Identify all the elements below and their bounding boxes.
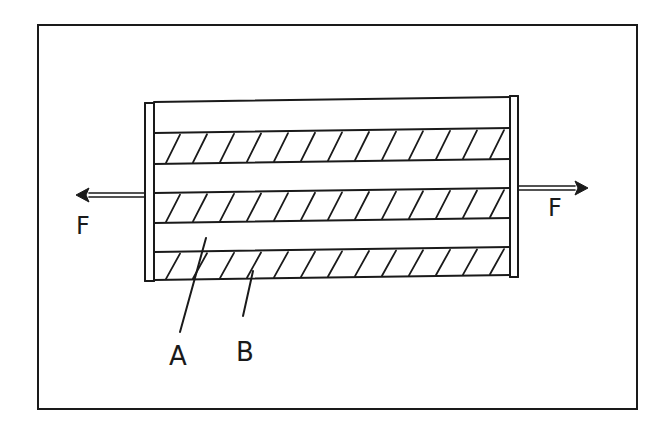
hatch-stroke-layer-5 bbox=[301, 252, 315, 277]
hatch-stroke-layer-1 bbox=[301, 133, 315, 161]
hatch-stroke-layer-1 bbox=[166, 135, 180, 163]
hatch-stroke-layer-1 bbox=[409, 131, 423, 159]
force-arrow-left bbox=[76, 188, 145, 202]
hatch-stroke-layer-1 bbox=[355, 132, 369, 160]
layer-interface-line bbox=[154, 247, 510, 252]
hatch-stroke-layer-3 bbox=[436, 191, 450, 218]
hatch-stroke-layer-3 bbox=[220, 194, 234, 221]
hatch-stroke-layer-5 bbox=[490, 249, 504, 274]
hatch-stroke-layer-5 bbox=[382, 251, 396, 276]
hatch-stroke-layer-3 bbox=[490, 190, 504, 217]
force-arrow-right bbox=[519, 181, 588, 195]
hatch-stroke-layer-5 bbox=[463, 249, 477, 274]
hatch-stroke-layer-1 bbox=[436, 131, 450, 159]
arrow-head-icon bbox=[575, 181, 588, 195]
hatch-stroke-layer-5 bbox=[274, 252, 288, 277]
hatch-stroke-layer-3 bbox=[301, 193, 315, 220]
hatch-stroke-layer-3 bbox=[166, 195, 180, 222]
hatch-stroke-layer-5 bbox=[355, 251, 369, 276]
hatch-stroke-layer-5 bbox=[328, 251, 342, 276]
hatch-stroke-layer-3 bbox=[382, 192, 396, 219]
hatch-stroke-layer-3 bbox=[409, 191, 423, 218]
hatch-stroke-layer-1 bbox=[382, 132, 396, 160]
arrow-head-icon bbox=[76, 188, 89, 202]
hatch-stroke-layer-1 bbox=[463, 130, 477, 158]
layer-interface-line bbox=[154, 97, 510, 102]
hatch-stroke-layer-1 bbox=[490, 130, 504, 158]
hatch-stroke-layer-1 bbox=[328, 132, 342, 160]
material-label-b: B bbox=[236, 337, 254, 367]
hatch-stroke-layer-5 bbox=[220, 253, 234, 278]
hatch-stroke-layer-3 bbox=[193, 194, 207, 221]
composite-laminate-diagram: F F A B bbox=[0, 0, 670, 431]
layer-interface-line bbox=[154, 218, 510, 223]
hatch-stroke-layer-1 bbox=[193, 134, 207, 162]
hatched-layers-b bbox=[166, 130, 504, 279]
force-label-right: F bbox=[548, 194, 562, 222]
hatch-stroke-layer-3 bbox=[328, 192, 342, 219]
hatch-stroke-layer-5 bbox=[247, 252, 261, 277]
hatch-stroke-layer-5 bbox=[166, 254, 180, 279]
layer-interface-line bbox=[154, 128, 510, 133]
hatch-stroke-layer-5 bbox=[409, 250, 423, 275]
layer-interface-line bbox=[154, 159, 510, 164]
force-label-left: F bbox=[76, 212, 90, 240]
hatch-stroke-layer-3 bbox=[247, 193, 261, 220]
hatch-stroke-layer-1 bbox=[274, 133, 288, 161]
hatch-stroke-layer-3 bbox=[463, 190, 477, 217]
hatch-stroke-layer-5 bbox=[436, 250, 450, 275]
hatch-stroke-layer-3 bbox=[274, 193, 288, 220]
layer-interface-line bbox=[154, 188, 510, 193]
hatch-stroke-layer-1 bbox=[220, 134, 234, 162]
hatch-stroke-layer-3 bbox=[355, 192, 369, 219]
layer-interface-line bbox=[154, 275, 510, 280]
material-label-a: A bbox=[169, 341, 187, 371]
hatch-stroke-layer-1 bbox=[247, 133, 261, 161]
